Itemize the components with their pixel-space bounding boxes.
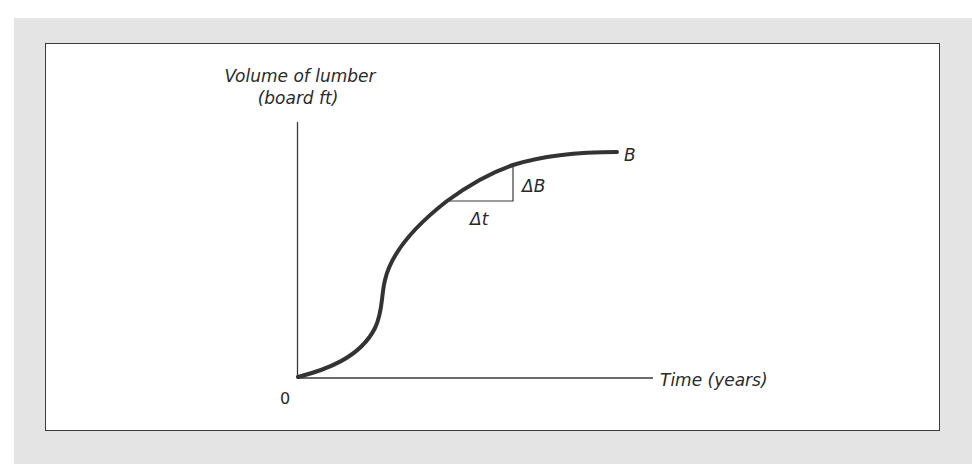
x-axis-label: Time (years) [660, 370, 768, 390]
delta-t-label: Δt [468, 209, 490, 229]
origin-label: 0 [280, 389, 290, 408]
curve-label-b: B [624, 145, 636, 165]
y-axis-label-line1: Volume of lumber [224, 66, 376, 86]
growth-curve-diagram: Volume of lumber (board ft) Time (years)… [0, 0, 972, 468]
growth-curve-b [298, 152, 617, 377]
y-axis-label-line2: (board ft) [258, 88, 339, 108]
delta-b-label: ΔB [520, 176, 545, 196]
